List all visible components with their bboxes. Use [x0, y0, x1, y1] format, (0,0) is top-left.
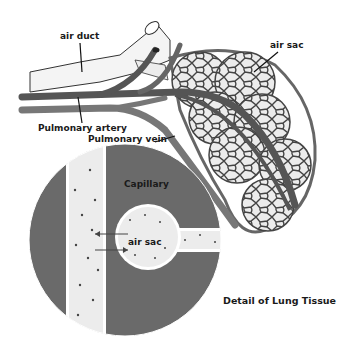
label-capillary: Capillary: [124, 180, 169, 189]
label-air-duct: air duct: [60, 32, 99, 41]
label-pulmonary-artery: Pulmonary artery: [38, 124, 127, 133]
caption: Detail of Lung Tissue: [223, 296, 336, 306]
label-air-sac: air sac: [270, 41, 304, 50]
label-pulmonary-vein: Pulmonary vein: [88, 135, 167, 144]
label-air-sac-detail: air sac: [128, 238, 162, 247]
